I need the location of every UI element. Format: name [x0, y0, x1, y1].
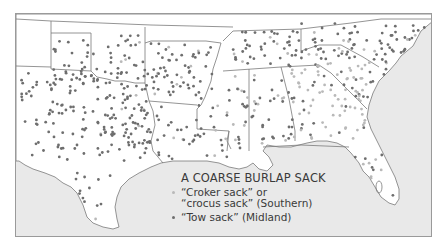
midland-dot-icon — [172, 216, 175, 219]
legend-label-southern-line2: “crocus sack” (Southern) — [181, 198, 312, 209]
legend-title: A COARSE BURLAP SACK — [181, 171, 326, 185]
southern-dot-icon — [172, 191, 175, 194]
legend-label-midland: “Tow sack” (Midland) — [181, 212, 291, 223]
